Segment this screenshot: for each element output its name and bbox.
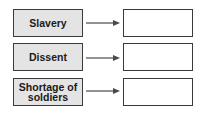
- cause-label: Slavery: [29, 18, 66, 28]
- cause-box-slavery: Slavery: [13, 9, 83, 37]
- arrow-icon: [86, 20, 120, 26]
- answer-box-shortage-of-soldiers[interactable]: [123, 78, 193, 106]
- cause-box-dissent: Dissent: [13, 43, 83, 71]
- arrow-icon: [86, 55, 120, 61]
- arrow-icon: [86, 88, 120, 94]
- answer-box-slavery[interactable]: [123, 9, 193, 37]
- answer-box-dissent[interactable]: [123, 43, 193, 71]
- cause-label: Dissent: [29, 52, 67, 62]
- cause-label: Shortage of soldiers: [19, 82, 77, 102]
- cause-box-shortage-of-soldiers: Shortage of soldiers: [13, 78, 83, 106]
